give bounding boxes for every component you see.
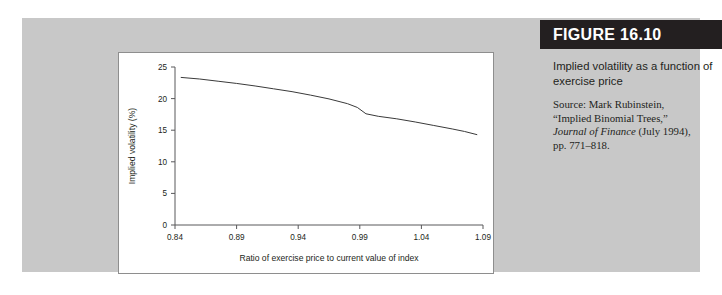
figure-caption-column: FIGURE 16.10 Implied volatility as a fun… (540, 18, 722, 272)
svg-text:0: 0 (162, 221, 167, 230)
svg-text:1.04: 1.04 (413, 233, 429, 242)
chart-panel: 05101520250.840.890.940.991.041.09Ratio … (118, 52, 494, 274)
svg-text:0.89: 0.89 (229, 233, 245, 242)
figure-source-note: Source: Mark Rubinstein, “Implied Binomi… (553, 98, 713, 152)
source-line-4: pp. 771–818. (553, 139, 713, 153)
x-axis-ticks: 0.840.890.940.991.041.09 (167, 225, 491, 242)
chart-plot-area: 05101520250.840.890.940.991.041.09Ratio … (119, 53, 493, 273)
svg-text:10: 10 (158, 158, 168, 167)
svg-text:0.84: 0.84 (167, 233, 183, 242)
source-line-2: “Implied Binomial Trees,” (553, 112, 713, 126)
source-line-3: Journal of Finance (July 1994), (553, 125, 713, 139)
svg-text:1.09: 1.09 (475, 233, 491, 242)
svg-text:25: 25 (158, 63, 168, 72)
svg-text:5: 5 (162, 189, 167, 198)
source-journal-date: (July 1994), (636, 125, 691, 137)
figure-caption-title: Implied volatility as a function of exer… (553, 59, 713, 89)
svg-text:15: 15 (158, 126, 168, 135)
figure-panel: 05101520250.840.890.940.991.041.09Ratio … (22, 18, 700, 272)
chart-axes (175, 67, 483, 225)
y-axis-title: Implied volatility (%) (127, 108, 137, 185)
figure-number-header: FIGURE 16.10 (540, 20, 722, 49)
source-line-1: Source: Mark Rubinstein, (553, 98, 713, 112)
source-journal-name: Journal of Finance (553, 125, 636, 137)
figure-caption-body: Implied volatility as a function of exer… (553, 59, 713, 152)
x-axis-title: Ratio of exercise price to current value… (239, 253, 419, 263)
svg-text:0.94: 0.94 (290, 233, 306, 242)
implied-volatility-line-chart: 05101520250.840.890.940.991.041.09Ratio … (119, 53, 493, 273)
data-series-implied-volatility (181, 77, 477, 134)
svg-text:20: 20 (158, 95, 168, 104)
svg-text:0.99: 0.99 (352, 233, 368, 242)
y-axis-ticks: 0510152025 (158, 63, 175, 230)
